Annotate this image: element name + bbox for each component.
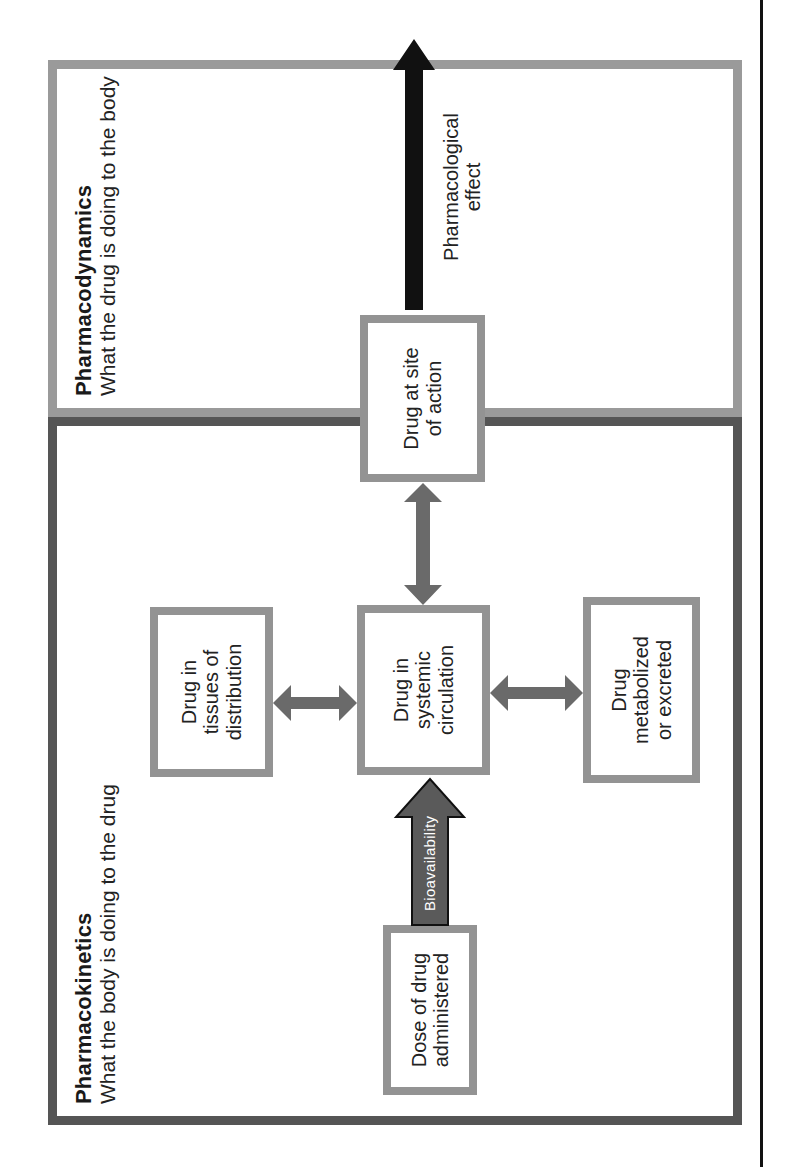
- bioavailability-label: Bioavailability: [421, 816, 438, 911]
- pharmacodynamics-subtitle: What the drug is doing to the body: [96, 76, 120, 396]
- pharmacokinetics-subtitle: What the body is doing to the drug: [96, 784, 120, 1104]
- pharmacodynamics-title: Pharmacodynamics: [71, 76, 96, 396]
- drug-in-systemic-circulation-box: Drug in systemic circulation: [357, 605, 490, 775]
- drug-in-tissues-box: Drug in tissues of distribution: [150, 607, 273, 777]
- drug-metabolized-box: Drug metabolized or excreted: [583, 597, 700, 783]
- pharmacological-effect-label: Pharmacological effect: [440, 87, 485, 287]
- diagram-canvas: Pharmacokinetics What the body is doing …: [0, 0, 788, 1167]
- pharmacokinetics-title: Pharmacokinetics: [71, 784, 96, 1104]
- dose-administered-box: Dose of drug administered: [383, 925, 477, 1095]
- pharmacokinetics-heading: Pharmacokinetics What the body is doing …: [71, 784, 120, 1104]
- drug-at-site-of-action-box: Drug at site of action: [360, 315, 485, 482]
- page-edge-rule: [760, 0, 763, 1167]
- pharmacodynamics-heading: Pharmacodynamics What the drug is doing …: [71, 76, 120, 396]
